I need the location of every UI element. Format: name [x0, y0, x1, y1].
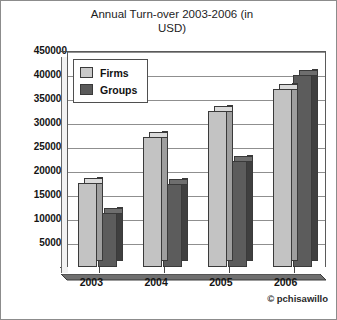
chart-figure: Annual Turn-over 2003-2006 (in USD) 0500… — [0, 0, 337, 320]
bar-firms-2004 — [143, 137, 162, 267]
bar-side-face — [117, 207, 123, 261]
chart-legend: Firms Groups — [73, 59, 148, 103]
legend-item-firms: Firms — [80, 64, 137, 81]
legend-label-firms: Firms — [100, 67, 129, 79]
y-axis-tick-label: 250000 — [9, 141, 67, 152]
legend-label-groups: Groups — [100, 84, 137, 96]
y-axis-tick-label: 0 — [9, 261, 67, 272]
x-axis: 2003200420052006 — [61, 267, 337, 293]
x-axis-tick-mark — [164, 267, 165, 273]
x-axis-tick-mark — [99, 267, 100, 273]
bar-side-face — [227, 105, 233, 261]
y-axis: 0500001000001500002000002500003000003500… — [1, 51, 67, 273]
y-axis-tick-label: 100000 — [9, 213, 67, 224]
legend-swatch-groups — [80, 84, 93, 95]
x-axis-tick-label-2004: 2004 — [144, 276, 167, 288]
y-axis-tick-label: 400000 — [9, 69, 67, 80]
legend-swatch-firms — [80, 67, 93, 78]
bar-front-face — [78, 183, 97, 267]
y-axis-tick-label: 450000 — [9, 45, 67, 56]
chart-title-line-2: USD) — [41, 21, 303, 35]
bar-side-face — [312, 69, 318, 261]
chart-title-line-1: Annual Turn-over 2003-2006 (in — [41, 7, 303, 21]
y-axis-tick-label: 350000 — [9, 93, 67, 104]
bar-side-face — [97, 177, 103, 261]
y-axis-tick-label: 200000 — [9, 165, 67, 176]
bar-side-face — [182, 178, 188, 261]
x-axis-tick-label-2003: 2003 — [80, 276, 103, 288]
bar-firms-2003 — [78, 183, 97, 267]
legend-item-groups: Groups — [80, 81, 137, 98]
bar-front-face — [143, 137, 162, 267]
y-axis-tick-label: 50000 — [9, 237, 67, 248]
y-axis-tick-mark — [60, 51, 67, 52]
x-axis-tick-mark — [229, 267, 230, 273]
gridline — [68, 52, 325, 53]
bar-firms-2005 — [208, 111, 227, 267]
x-axis-tick-mark — [294, 267, 295, 273]
bar-side-face — [292, 83, 298, 261]
bar-front-face — [208, 111, 227, 267]
bar-firms-2006 — [273, 89, 292, 267]
bar-front-face — [273, 89, 292, 267]
x-axis-tick-label-2006: 2006 — [274, 276, 297, 288]
chart-title: Annual Turn-over 2003-2006 (in USD) — [41, 7, 303, 35]
y-axis-tick-label: 300000 — [9, 117, 67, 128]
watermark: © pchisawillo — [267, 293, 328, 304]
y-axis-tick-label: 150000 — [9, 189, 67, 200]
x-axis-tick-label-2005: 2005 — [209, 276, 232, 288]
bar-side-face — [247, 155, 253, 261]
bar-side-face — [162, 131, 168, 261]
